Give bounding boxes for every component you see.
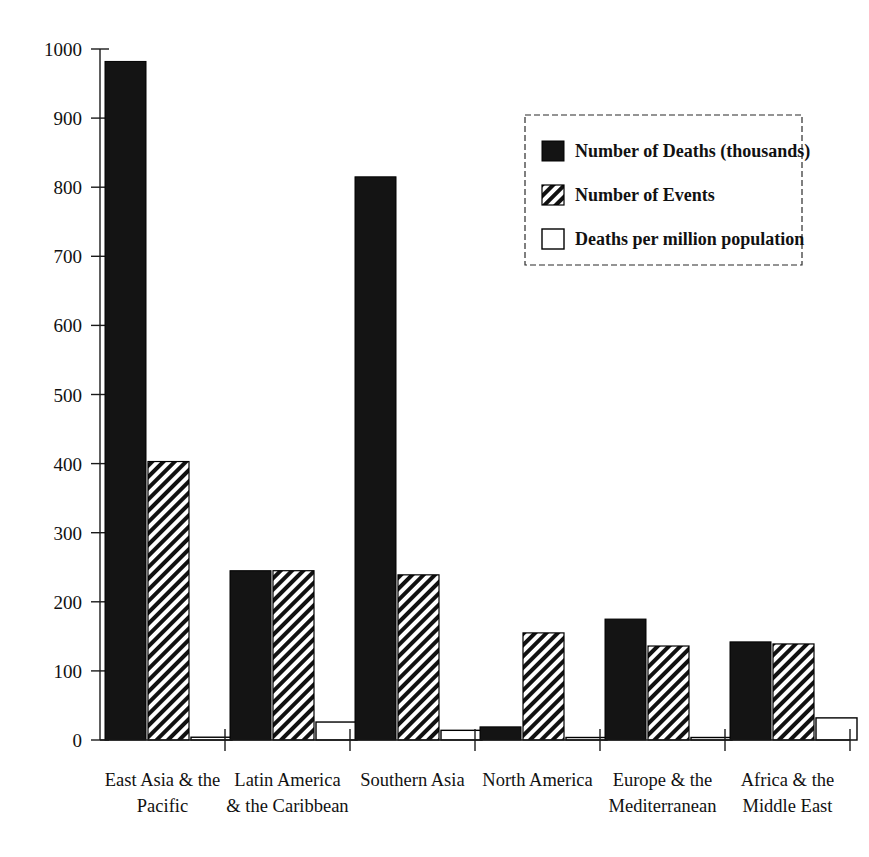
y-axis-tick-label: 700 [54, 246, 83, 267]
bar [148, 462, 189, 740]
x-axis-category-label: Europe & the [613, 770, 713, 790]
legend-label: Number of Deaths (thousands) [575, 141, 810, 162]
category-labels: East Asia & thePacificLatin America& the… [105, 770, 835, 816]
x-axis-category-label: Southern Asia [360, 770, 464, 790]
y-axis-tick-label: 300 [54, 523, 83, 544]
y-axis-tick-label: 100 [54, 661, 83, 682]
bar [523, 633, 564, 740]
bar [273, 571, 314, 740]
bar-group [355, 177, 482, 740]
x-axis-category-label: Middle East [743, 796, 834, 816]
bar-chart-svg: 01002003004005006007008009001000 East As… [0, 0, 869, 857]
y-axis-tick-label: 200 [54, 592, 83, 613]
x-axis-category-label: Africa & the [741, 770, 835, 790]
bar [730, 642, 771, 740]
y-axis-tick-label: 0 [73, 730, 83, 751]
y-axis: 01002003004005006007008009001000 [44, 39, 109, 751]
bar [316, 722, 357, 740]
y-axis-tick-label: 400 [54, 454, 83, 475]
bar [605, 619, 646, 740]
x-axis-category-label: East Asia & the [105, 770, 221, 790]
y-axis-tick-label: 900 [54, 108, 83, 129]
chart-container: 01002003004005006007008009001000 East As… [0, 0, 869, 857]
bar-group [605, 619, 732, 740]
bar-group [105, 61, 232, 740]
bar [773, 644, 814, 740]
legend-swatch [542, 141, 564, 161]
x-axis-category-label: North America [482, 770, 592, 790]
legend-item: Number of Events [542, 185, 715, 205]
bar [480, 727, 521, 740]
legend-item: Deaths per million population [542, 229, 804, 249]
legend-label: Number of Events [575, 185, 715, 205]
y-axis-tick-label: 1000 [44, 39, 82, 60]
x-axis-category-label: Latin America [234, 770, 340, 790]
bar-group [480, 633, 607, 740]
legend-label: Deaths per million population [575, 229, 804, 249]
x-axis-category-label: & the Caribbean [226, 796, 348, 816]
x-axis-category-label: Mediterranean [609, 796, 717, 816]
legend-item: Number of Deaths (thousands) [542, 141, 810, 162]
x-axis-category-label: Pacific [137, 796, 188, 816]
bar [398, 575, 439, 740]
bar [648, 646, 689, 740]
bar-group [230, 571, 357, 740]
bar [816, 718, 857, 740]
legend-swatch [542, 229, 564, 249]
bars-layer [105, 61, 857, 740]
bar [230, 571, 271, 740]
bar [355, 177, 396, 740]
bar [105, 61, 146, 740]
chart-legend: Number of Deaths (thousands)Number of Ev… [525, 115, 810, 265]
y-axis-tick-label: 600 [54, 315, 83, 336]
y-axis-tick-label: 500 [54, 385, 83, 406]
bar [441, 730, 482, 740]
bar-group [730, 642, 857, 740]
legend-swatch [542, 185, 564, 205]
y-axis-tick-label: 800 [54, 177, 83, 198]
